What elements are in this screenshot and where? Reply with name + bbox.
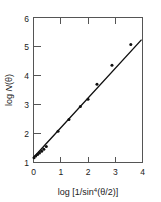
data-point	[42, 148, 45, 151]
data-point	[67, 118, 70, 121]
y-tick-label-6: 6	[24, 14, 29, 24]
x-tick-label-4: 4	[140, 167, 145, 177]
y-tick-label-5: 5	[24, 42, 29, 52]
x-axis-tick-labels: 0 1 2 3 4	[31, 167, 145, 177]
x-tick-label-2: 2	[86, 167, 91, 177]
x-tick-label-1: 1	[58, 167, 63, 177]
y-tick-label-2: 2	[24, 129, 29, 139]
plot-canvas: 1 2 3 4 5 6 0 1 2 3 4 log [1/sin4(θ/2)] …	[0, 0, 161, 202]
x-tick-label-3: 3	[113, 167, 118, 177]
y-tick-label-4: 4	[24, 71, 29, 81]
x-axis-title: log [1/sin4(θ/2)]	[58, 187, 118, 198]
x-tick-label-0: 0	[31, 167, 36, 177]
y-axis-tick-labels: 1 2 3 4 5 6	[24, 14, 29, 168]
data-point	[87, 98, 90, 101]
data-point	[79, 105, 82, 108]
data-point	[45, 145, 48, 148]
x-axis-title-suffix: (θ/2)]	[97, 187, 118, 197]
y-axis-title-suffix: (θ)	[4, 74, 14, 85]
y-axis-title: log N(θ)	[4, 74, 14, 106]
data-point	[95, 83, 98, 86]
data-point	[129, 43, 132, 46]
y-tick-label-3: 3	[24, 100, 29, 110]
data-point	[57, 130, 60, 133]
y-tick-label-1: 1	[24, 158, 29, 168]
y-axis-title-prefix: log	[4, 91, 14, 106]
x-axis-title-prefix: log [1/sin	[58, 187, 94, 197]
data-point	[110, 64, 113, 67]
scatter-plot-figure: 1 2 3 4 5 6 0 1 2 3 4 log [1/sin4(θ/2)] …	[0, 0, 161, 202]
